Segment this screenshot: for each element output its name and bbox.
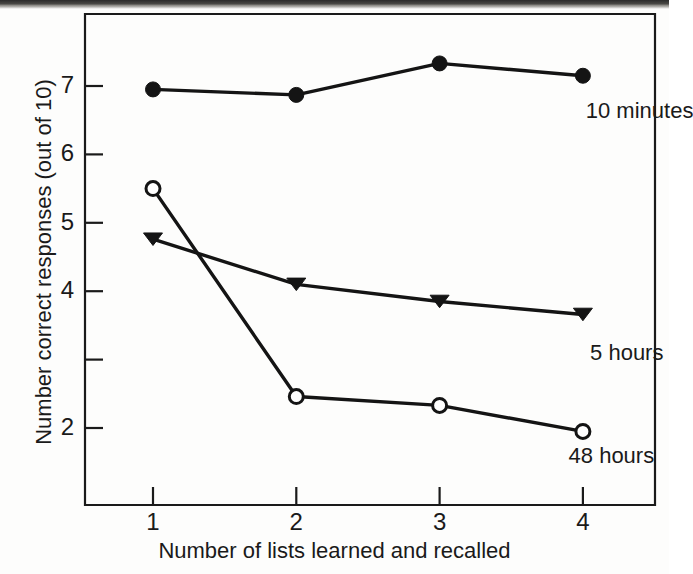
- x-tick-label: 2: [271, 510, 321, 534]
- x-tick-label: 4: [558, 510, 608, 534]
- data-point-marker: [146, 82, 161, 97]
- data-point-marker: [575, 68, 590, 83]
- series-label-5-hours: 5 hours: [590, 340, 663, 366]
- x-axis-ticks: [153, 487, 583, 505]
- data-point-marker: [146, 182, 160, 196]
- data-point-marker: [289, 87, 304, 102]
- series-label-10-minutes: 10 minutes: [586, 98, 693, 124]
- data-point-marker: [289, 390, 303, 404]
- data-point-marker: [433, 398, 447, 412]
- data-point-marker: [576, 424, 590, 438]
- plot-frame: [85, 14, 655, 505]
- series-label-48-hours: 48 hours: [569, 443, 655, 469]
- data-point-marker: [144, 233, 163, 246]
- x-tick-label: 3: [415, 510, 465, 534]
- series-10-minutes: [146, 56, 591, 102]
- data-point-marker: [432, 56, 447, 71]
- x-tick-label: 1: [128, 510, 178, 534]
- series-5-hours: [144, 233, 593, 321]
- y-axis-title: Number correct responses (out of 10): [31, 12, 57, 512]
- data-series-layer: [144, 56, 593, 438]
- y-axis-ticks: [85, 86, 103, 428]
- x-axis-title: Number of lists learned and recalled: [0, 538, 669, 564]
